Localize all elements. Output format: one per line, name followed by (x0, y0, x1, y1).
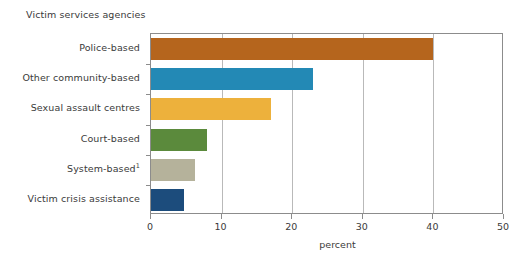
x-axis-tick (432, 214, 433, 219)
category-label: Police-based (79, 37, 140, 59)
y-axis-tick (146, 155, 151, 156)
category-label: System-based1 (67, 158, 140, 180)
bar (151, 189, 184, 211)
bar (151, 129, 207, 151)
x-axis-tick (362, 214, 363, 219)
bars-layer (151, 34, 502, 213)
x-axis-tick (291, 214, 292, 219)
plot-area (150, 33, 503, 214)
bar-chart-figure: Victim services agencies Police-basedOth… (0, 0, 525, 264)
y-axis-tick (146, 185, 151, 186)
y-axis-tick (146, 125, 151, 126)
x-axis-tick-label: 20 (271, 221, 311, 232)
bar-fill (151, 189, 184, 211)
bar-fill (151, 159, 195, 181)
bar-fill (151, 129, 207, 151)
x-axis-tick (150, 214, 151, 219)
bar (151, 159, 195, 181)
x-axis-tick-label: 40 (412, 221, 452, 232)
footnote-marker: 1 (136, 162, 140, 170)
x-axis-tick-label: 0 (130, 221, 170, 232)
x-axis-tick-label: 50 (483, 221, 523, 232)
y-axis-tick (146, 64, 151, 65)
x-axis-tick (503, 214, 504, 219)
x-axis-tick-label: 10 (201, 221, 241, 232)
x-axis-tick (221, 214, 222, 219)
y-axis-tick (146, 94, 151, 95)
x-axis-label: percent (0, 239, 525, 250)
chart-title: Victim services agencies (26, 9, 146, 20)
category-label: Sexual assault centres (31, 97, 140, 119)
bar-fill (151, 68, 313, 90)
bar-fill (151, 98, 271, 120)
x-axis-label-text: percent (169, 239, 355, 250)
category-label: Victim crisis assistance (28, 188, 140, 210)
x-axis-tick-label: 30 (342, 221, 382, 232)
category-axis-labels: Police-basedOther community-basedSexual … (0, 33, 145, 214)
category-label: Other community-based (22, 67, 140, 89)
bar-fill (151, 38, 433, 60)
bar (151, 38, 433, 60)
category-label: Court-based (81, 128, 140, 150)
bar (151, 68, 313, 90)
bar (151, 98, 271, 120)
